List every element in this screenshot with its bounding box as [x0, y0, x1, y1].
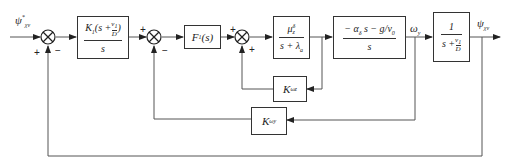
sum3-plus-bottom: +	[249, 45, 255, 55]
sum2-plus: +	[140, 25, 146, 35]
kinematics-block: 1 s +v1D	[433, 12, 470, 62]
input-label: ψ*χv	[15, 14, 30, 28]
actuator-block: μδz s + λa	[273, 16, 310, 59]
sum2-minus: −	[162, 46, 168, 56]
inner-gain-block: Kωz	[273, 76, 307, 102]
sum3-plus-top: +	[230, 25, 236, 35]
controller-block: K1(s +v1D) s	[77, 16, 129, 59]
sum1-plus: +	[34, 48, 40, 58]
output-label: ψχv	[477, 18, 489, 31]
block-diagram: ψ*χv + − K1(s +v1D) s + − F1(s) + + μδz …	[0, 0, 508, 165]
filter-block: F1(s)	[184, 25, 221, 49]
dynamics-block: − αδ s − g/v0 s	[333, 16, 406, 59]
omega-label: ωy	[410, 23, 420, 36]
sum1-minus: −	[55, 46, 61, 56]
rate-gain-block: Kωy	[251, 107, 287, 135]
